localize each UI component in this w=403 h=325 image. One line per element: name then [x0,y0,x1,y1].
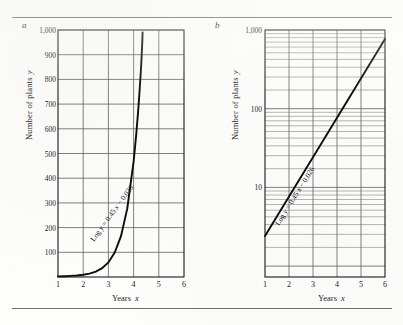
svg-text:Log y = 0.45 x − 0.026: Log y = 0.45 x − 0.026 [88,183,135,243]
panel-b-plot: Log y = 0.45 x − 0.026 [265,30,385,277]
panel-a-x-axis-title: Yearsx [112,293,139,303]
panel-b-x-axis-title-text: Years [318,293,337,303]
bottom-divider-rule [12,308,392,309]
panel-b-x-axis-title-var: x [337,293,345,303]
panel-a-xtick-5: 5 [149,280,169,289]
panel-b-equation-annotation: Log y = 0.45 x − 0.026 [273,165,317,227]
panel-a-xtick-2: 2 [73,280,93,289]
panel-a-plot: Log y = 0.45 x − 0.026 [58,30,184,277]
panel-a-ytick-900: 900 [16,51,56,60]
figure-page: a Number of plantsy 1,000 900 800 700 60… [0,0,403,325]
panel-a-xtick-4: 4 [124,280,144,289]
panel-a-horizontal-gridlines [58,55,184,253]
panel-b-y-axis-title-var: y [230,70,240,77]
panel-a-ytick-600: 600 [16,125,56,134]
panel-b-ytick-1000: 1,000 [228,26,262,35]
panel-a-xtick-6: 6 [174,280,194,289]
panel-a-ytick-400: 400 [16,174,56,183]
panel-a-ytick-500: 500 [16,150,56,159]
panel-a-ytick-300: 300 [16,199,56,208]
panel-b-xtick-3: 3 [303,280,323,289]
panel-b-ytick-10: 10 [228,183,262,192]
panel-a-xtick-1: 1 [48,280,68,289]
panel-label-b: b [215,20,220,30]
panel-a-x-axis-title-var: x [131,293,139,303]
svg-text:Log y = 0.45 x − 0.026: Log y = 0.45 x − 0.026 [273,165,317,227]
panel-a-ytick-200: 200 [16,224,56,233]
top-divider-rule [12,17,392,18]
panel-a-ytick-1000: 1,000 [16,26,56,35]
panel-b-xtick-6: 6 [375,280,395,289]
panel-a-ytick-800: 800 [16,75,56,84]
panel-b-xtick-2: 2 [279,280,299,289]
panel-a-ytick-700: 700 [16,100,56,109]
panel-b-ytick-100: 100 [228,105,262,114]
panel-a-ytick-100: 100 [16,248,56,257]
panel-b-x-axis-title: Yearsx [318,293,345,303]
panel-b-decade-gridlines [265,109,385,266]
panel-b-xtick-1: 1 [255,280,275,289]
panel-a-equation-annotation: Log y = 0.45 x − 0.026 [88,183,135,243]
panel-b-xtick-5: 5 [351,280,371,289]
panel-a-xtick-3: 3 [98,280,118,289]
panel-a-data-curve [58,33,143,277]
panel-b-xtick-4: 4 [327,280,347,289]
panel-a-x-axis-title-text: Years [112,293,131,303]
